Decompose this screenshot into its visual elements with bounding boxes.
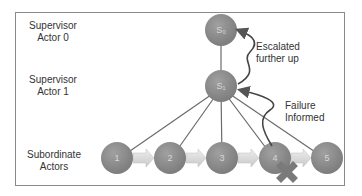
node-label: S₀: [211, 24, 231, 36]
node-label: S₁: [211, 80, 231, 92]
annotation-line: further up: [256, 53, 300, 65]
annotation-line: Failure: [285, 100, 324, 112]
annotation-line: Informed: [285, 112, 324, 124]
annotation-failure: Failure Informed: [285, 100, 324, 124]
escalation-arrow: [238, 30, 255, 84]
diagram-canvas: [0, 0, 362, 196]
node-label: 3: [212, 152, 232, 164]
node-label: 5: [317, 152, 337, 164]
annotation-escalated: Escalated further up: [256, 41, 300, 65]
failure-informed-arrow: [240, 90, 274, 146]
annotation-line: Escalated: [256, 41, 300, 53]
node-label: 1: [107, 152, 127, 164]
node-label: 4: [265, 152, 285, 164]
node-label: 2: [160, 152, 180, 164]
